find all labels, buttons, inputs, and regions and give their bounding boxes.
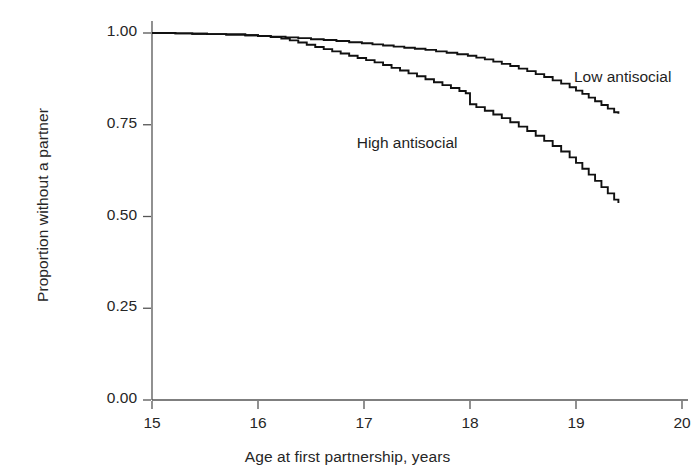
series-annotation-high-antisocial: High antisocial bbox=[357, 134, 458, 152]
y-tick-label: 0.50 bbox=[77, 206, 137, 224]
x-tick-label: 20 bbox=[662, 414, 695, 432]
y-axis-title: Proportion without a partner bbox=[34, 80, 52, 330]
x-tick-label: 17 bbox=[344, 414, 384, 432]
series-annotation-low-antisocial: Low antisocial bbox=[574, 68, 671, 86]
series-line-low-antisocial bbox=[152, 33, 618, 114]
x-tick-label: 16 bbox=[238, 414, 278, 432]
y-tick-label: 0.00 bbox=[77, 389, 137, 407]
y-tick-label: 0.75 bbox=[77, 114, 137, 132]
y-tick-label: 0.25 bbox=[77, 297, 137, 315]
chart-figure: Proportion without a partner Age at firs… bbox=[0, 0, 695, 473]
y-tick-label: 1.00 bbox=[77, 22, 137, 40]
x-tick-label: 19 bbox=[556, 414, 596, 432]
x-tick-label: 15 bbox=[132, 414, 172, 432]
x-axis-title: Age at first partnership, years bbox=[0, 448, 695, 466]
series-line-high-antisocial bbox=[152, 33, 618, 203]
series-lines bbox=[152, 33, 618, 203]
x-tick-label: 18 bbox=[450, 414, 490, 432]
